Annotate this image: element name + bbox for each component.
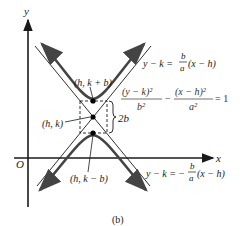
svg-text:y − k = −: y − k = − — [145, 168, 185, 179]
center-label: (h, k) — [42, 118, 64, 130]
top-vertex-label: (h, k + b) — [74, 77, 113, 89]
top-vertex-point — [90, 98, 95, 103]
hyperbola-equation: (y − k)² b² − (x − h)² a² = 1 — [121, 86, 228, 112]
svg-text:(x − h): (x − h) — [188, 58, 217, 70]
bottom-vertex-label: (h, k − b) — [70, 173, 109, 185]
brace-label: 2b — [118, 112, 130, 124]
svg-text:a²: a² — [189, 101, 198, 112]
svg-text:(x − h): (x − h) — [197, 168, 226, 180]
svg-text:b: b — [190, 161, 195, 171]
svg-text:= 1: = 1 — [215, 93, 228, 104]
svg-text:b²: b² — [137, 101, 146, 112]
hyperbola-diagram: y x O (h, k + b) (h, k) (h, k − b) 2b y … — [0, 0, 242, 226]
svg-text:a: a — [189, 173, 194, 183]
center-leader — [65, 117, 90, 122]
origin-label: O — [16, 158, 24, 170]
svg-text:−: − — [165, 93, 171, 104]
asymptote-upper-equation: y − k = b a (x − h) — [142, 51, 217, 73]
svg-text:y − k =: y − k = — [142, 58, 173, 69]
svg-text:(x − h)²: (x − h)² — [175, 86, 207, 98]
y-axis-label: y — [23, 5, 29, 17]
bottom-vertex-point — [90, 130, 95, 135]
center-point — [90, 114, 95, 119]
figure-caption: (b) — [112, 214, 124, 226]
brace-2b — [109, 101, 116, 133]
svg-text:b: b — [181, 51, 186, 61]
asymptote-lower-equation: y − k = − b a (x − h) — [145, 161, 226, 183]
x-axis-label: x — [215, 152, 221, 164]
bottom-vertex-leader — [88, 135, 93, 172]
svg-text:a: a — [180, 63, 185, 73]
svg-text:(y − k)²: (y − k)² — [122, 86, 153, 98]
